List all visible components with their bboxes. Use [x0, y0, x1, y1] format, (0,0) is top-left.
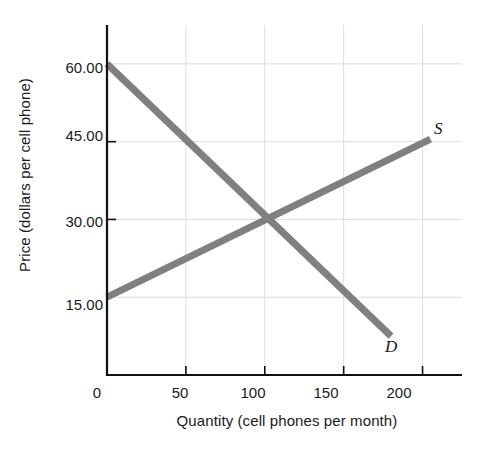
x-axis-title: Quantity (cell phones per month)	[107, 412, 467, 429]
y-tick-label-60: 60.00	[33, 60, 103, 76]
demand-curve	[107, 64, 391, 336]
y-tick-marks	[107, 142, 116, 220]
x-tick-marks	[186, 366, 423, 375]
y-tick-label-15: 15.00	[33, 297, 103, 313]
y-tick-label-45: 45.00	[33, 128, 103, 144]
x-tick-label-0: 0	[72, 385, 122, 401]
demand-curve-label: D	[385, 338, 397, 356]
x-tick-label-150: 150	[301, 385, 351, 401]
x-tick-label-50: 50	[155, 385, 205, 401]
horizontal-gridlines	[107, 64, 462, 297]
supply-curve	[107, 139, 430, 297]
supply-curve-label: S	[434, 120, 443, 138]
x-tick-label-200: 200	[374, 385, 424, 401]
y-tick-label-30: 30.00	[33, 214, 103, 230]
supply-demand-chart: Price (dollars per cell phone) Quantity …	[0, 0, 482, 450]
x-tick-label-100: 100	[228, 385, 278, 401]
